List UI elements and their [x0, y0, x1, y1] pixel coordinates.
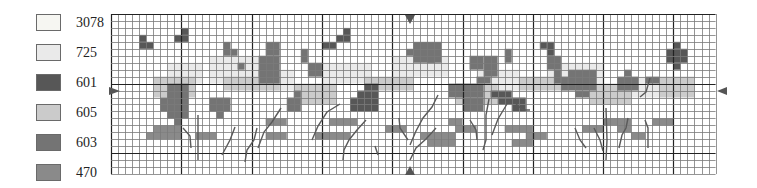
stitch-chart-grid — [0, 0, 757, 188]
